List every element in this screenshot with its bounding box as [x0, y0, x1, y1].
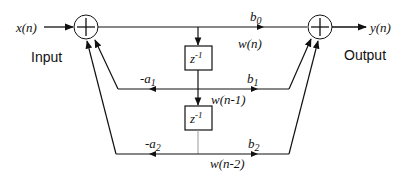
b2-feedforward-line — [289, 41, 318, 154]
output-signal-label: y(n) — [370, 21, 391, 34]
delay-2-label: z-1 — [190, 112, 203, 125]
delay-1-label: z-1 — [190, 52, 203, 65]
left-adder-icon — [74, 15, 98, 39]
b1-label: b1 — [247, 72, 259, 85]
right-adder-icon — [308, 15, 332, 39]
a2-label: -a2 — [145, 137, 161, 150]
a2-arrow-icon — [149, 151, 156, 157]
w-n-label: w(n) — [238, 37, 262, 50]
output-label: Output — [344, 48, 386, 62]
b0-label: b0 — [250, 10, 262, 23]
a1-feedback-line — [95, 40, 118, 89]
w-n-2-label: w(n-2) — [210, 157, 245, 170]
filter-diagram — [0, 0, 401, 180]
w-n-1-label: w(n-1) — [211, 93, 246, 106]
a1-label: -a1 — [140, 72, 156, 85]
b2-label: b2 — [248, 137, 260, 150]
a2-feedback-line — [87, 41, 116, 154]
input-signal-label: x(n) — [16, 21, 37, 34]
input-label: Input — [31, 50, 62, 64]
